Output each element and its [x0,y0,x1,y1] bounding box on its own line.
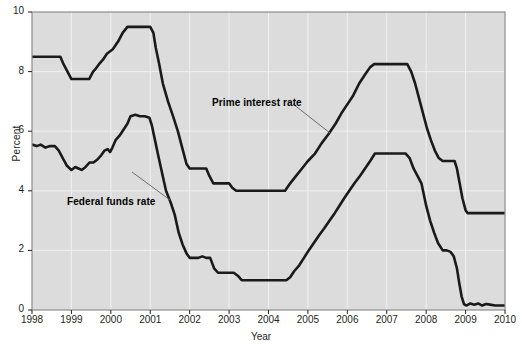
y-tick-label: 2 [0,243,24,254]
x-tick-label: 2010 [482,314,522,325]
y-tick-label: 4 [0,184,24,195]
y-tick-label: 8 [0,65,24,76]
y-axis-label: Percent [11,114,22,174]
x-axis-label: Year [0,331,522,342]
annotation-federal-funds-rate: Federal funds rate [67,196,156,207]
y-tick-label: 6 [0,124,24,135]
annotation-prime-interest-rate: Prime interest rate [212,97,302,108]
chart-figure: Percent Year 0246810 1998199920002001200… [0,0,522,351]
y-tick-label: 0 [0,303,24,314]
y-tick-label: 10 [0,5,24,16]
chart-plot-area [0,0,522,351]
